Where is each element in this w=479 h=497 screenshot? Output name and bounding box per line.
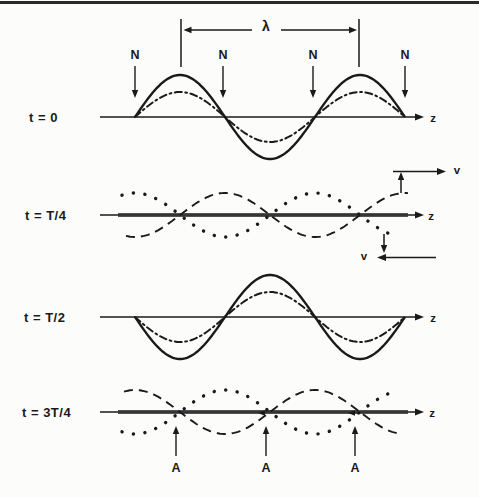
antinode-label: A (171, 462, 180, 475)
node-label: N (218, 49, 227, 62)
velocity-arrow-right-head (437, 168, 446, 175)
antinode-arrow-head (173, 426, 179, 434)
node-arrow-head (220, 90, 226, 98)
velocity-arrow-left-head (377, 254, 386, 261)
z-axis-label: z (428, 211, 434, 223)
node-label: N (400, 49, 409, 62)
node-arrow-head (132, 90, 138, 98)
node-label: N (130, 49, 139, 62)
lambda-arrow-head (184, 27, 192, 33)
z-axis-arrowhead (415, 314, 424, 321)
antinode-arrow-head (352, 426, 358, 434)
node-arrow-head (310, 90, 316, 98)
z-axis-arrowhead (415, 114, 424, 121)
velocity-label: v (361, 251, 367, 263)
scanned-figure-page: t = 0 t = T/4 t = T/2 t = 3T/4 N N N N λ… (0, 0, 479, 497)
antinode-label: A (261, 462, 270, 475)
time-label-t14: t = T/4 (25, 209, 66, 222)
wave-panel-0 (100, 19, 424, 159)
wave-panel-1 (100, 168, 446, 261)
z-axis-label: z (429, 408, 435, 420)
velocity-arrow-up-head (398, 172, 404, 180)
wave-panel-2 (100, 275, 424, 359)
z-axis-arrowhead (415, 409, 424, 416)
lambda-label: λ (262, 19, 270, 33)
antinode-label: A (350, 462, 359, 475)
node-arrow-head (402, 90, 408, 98)
velocity-arrow-down-head (381, 245, 387, 253)
time-label-t12: t = T/2 (24, 311, 65, 324)
antinode-arrow-head (263, 426, 269, 434)
velocity-label: v (454, 165, 460, 177)
time-label-t0: t = 0 (29, 111, 58, 124)
z-axis-label: z (430, 313, 436, 325)
figure-canvas (0, 0, 479, 497)
time-label-t34: t = 3T/4 (22, 406, 71, 419)
z-axis-arrowhead (415, 212, 424, 219)
z-axis-label: z (430, 113, 436, 125)
node-label: N (308, 49, 317, 62)
wave-panel-3 (100, 390, 424, 456)
lambda-arrow-head (349, 27, 357, 33)
